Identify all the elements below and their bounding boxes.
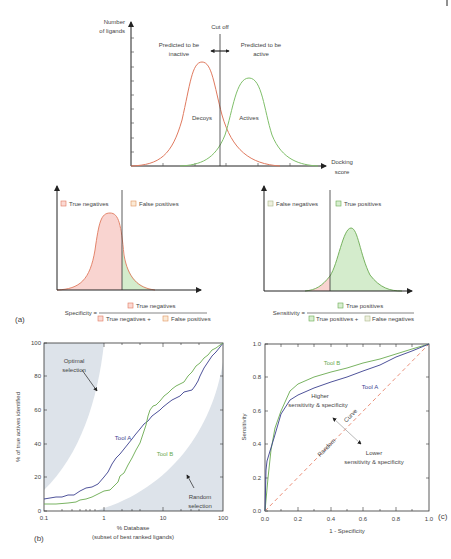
svg-text:100: 100 <box>31 340 42 346</box>
actives-curve <box>180 78 318 166</box>
svg-text:0.1: 0.1 <box>40 515 49 521</box>
svg-text:0.6: 0.6 <box>359 516 368 522</box>
svg-text:1.0: 1.0 <box>425 516 434 522</box>
svg-text:20: 20 <box>34 474 41 480</box>
tool-b-label-c: Tool B <box>324 360 341 366</box>
x-axis-label-2: score <box>335 169 350 175</box>
panel-b-label: (b) <box>34 534 44 543</box>
random-curve-line <box>265 344 429 511</box>
svg-text:40: 40 <box>34 441 41 447</box>
svg-text:0.4: 0.4 <box>253 441 262 447</box>
active-label-1: Predicted to be <box>241 42 282 48</box>
higher-label-1: Higher <box>311 393 329 399</box>
y-axis-label-1: Number <box>104 19 125 25</box>
tool-b-label-b: Tool B <box>157 451 174 457</box>
x-axis-label-b-2: (subset of best ranked ligands) <box>92 534 174 540</box>
svg-text:0.0: 0.0 <box>253 508 262 514</box>
svg-text:0: 0 <box>38 508 42 514</box>
distribution-plot: Number of ligands Cut off Predicted to b… <box>99 19 353 175</box>
svg-text:0.2: 0.2 <box>294 516 303 522</box>
decoys-curve <box>131 62 280 166</box>
y-axis-label-2: of ligands <box>99 28 125 34</box>
active-label-2: active <box>253 51 269 57</box>
tool-a-label-c: Tool A <box>362 384 378 390</box>
inactive-label-2: inactive <box>169 51 190 57</box>
svg-text:80: 80 <box>34 373 41 379</box>
panel-a-label: (a) <box>15 315 25 324</box>
legend-false-negatives: False negatives <box>276 201 318 207</box>
sensitivity-plot: False negatives True positives <box>264 186 412 291</box>
optimal-selection-label-2: selection <box>62 367 86 373</box>
higher-label-2: sensitivity & specificity <box>288 402 347 408</box>
svg-text:0.8: 0.8 <box>253 374 262 380</box>
svg-text:True positives +: True positives + <box>316 316 359 322</box>
inactive-label-1: Predicted to be <box>159 42 200 48</box>
true-negatives-swatch <box>61 201 66 206</box>
tool-a-label-b: Tool A <box>115 435 131 441</box>
x-axis-label-1: Docking <box>331 159 353 165</box>
random-selection-label-1: Random <box>189 494 212 500</box>
figure-canvas: Number of ligands Cut off Predicted to b… <box>0 0 451 559</box>
curve-word: Curve <box>343 407 359 423</box>
specificity-plot: True negatives False positives <box>57 186 201 290</box>
cutoff-label: Cut off <box>211 24 229 30</box>
svg-text:0.0: 0.0 <box>261 516 270 522</box>
svg-text:0.8: 0.8 <box>392 516 401 522</box>
random-selection-label-2: selection <box>188 503 212 509</box>
true-positives-swatch <box>336 201 341 206</box>
optimal-selection-region <box>44 343 104 490</box>
svg-text:0.2: 0.2 <box>253 475 262 481</box>
svg-text:1: 1 <box>102 515 106 521</box>
false-negatives-swatch <box>268 201 273 206</box>
legend-false-positives: False positives <box>139 201 179 207</box>
roc-plot: Tool B Tool A Higher sensitivity & speci… <box>241 341 448 534</box>
svg-text:0.4: 0.4 <box>327 516 336 522</box>
svg-text:False negatives: False negatives <box>372 316 414 322</box>
decoys-label: Decoys <box>192 115 212 121</box>
lower-label-1: Lower <box>366 450 382 456</box>
svg-text:Specificity =: Specificity = <box>65 310 98 316</box>
legend-true-negatives: True negatives <box>69 201 108 207</box>
svg-text:True positives: True positives <box>346 303 383 309</box>
svg-text:100: 100 <box>218 515 229 521</box>
sensitivity-formula: Sensitivity = True positives True positi… <box>273 303 414 322</box>
x-axis-label-c: 1 - Specificity <box>329 528 365 534</box>
y-axis-label-b: % of true actives identified <box>15 392 21 462</box>
svg-text:1.0: 1.0 <box>253 341 262 347</box>
enrichment-plot: Optimal selection Random selection Tool … <box>15 340 229 543</box>
svg-text:10: 10 <box>160 515 167 521</box>
specificity-formula: (a) Specificity = True negatives True ne… <box>15 303 211 324</box>
random-word: Random <box>316 437 336 457</box>
actives-label: Actives <box>239 115 258 121</box>
svg-text:True negatives +: True negatives + <box>106 316 151 322</box>
svg-text:False positives: False positives <box>171 316 211 322</box>
svg-text:60: 60 <box>34 407 41 413</box>
svg-text:True negatives: True negatives <box>136 303 175 309</box>
x-axis-label-b-1: % Database <box>117 525 150 531</box>
lower-label-2: sensitivity & specificity <box>344 459 403 465</box>
y-axis-label-c: Sensitivity <box>241 413 247 440</box>
svg-text:Sensitivity =: Sensitivity = <box>273 310 306 316</box>
legend-true-positives: True positives <box>344 201 381 207</box>
optimal-selection-label-1: Optimal <box>64 358 85 364</box>
panel-c-label: (c) <box>438 512 448 521</box>
false-positives-swatch <box>131 201 136 206</box>
svg-text:0.6: 0.6 <box>253 408 262 414</box>
